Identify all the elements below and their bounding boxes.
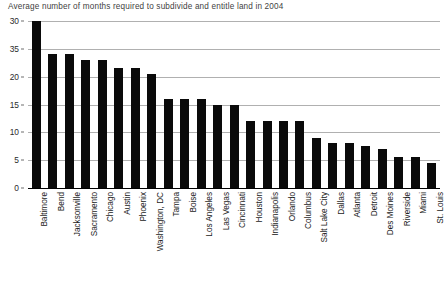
bar xyxy=(147,74,156,188)
x-axis-label-slot: Phoenix xyxy=(127,190,143,290)
bar-slot xyxy=(292,21,308,188)
bar-slot xyxy=(143,21,159,188)
x-axis-label-slot: Cincinnati xyxy=(226,190,242,290)
x-axis-label-slot: Tampa xyxy=(160,190,176,290)
y-axis-tick-mark xyxy=(21,188,24,189)
bar xyxy=(131,68,140,188)
bar-slot xyxy=(160,21,176,188)
y-axis-tick-mark xyxy=(21,21,24,22)
y-axis-tick-label: 20 xyxy=(10,72,19,82)
y-axis-tick-mark xyxy=(21,104,24,105)
x-axis-label-slot: Riverside xyxy=(391,190,407,290)
bar-slot xyxy=(28,21,44,188)
chart-title: Average number of months required to sub… xyxy=(8,2,284,11)
bar-slot xyxy=(325,21,341,188)
x-axis-label-slot: Austin xyxy=(110,190,126,290)
x-axis-label-slot: Boise xyxy=(176,190,192,290)
bar xyxy=(180,99,189,188)
bar-slot xyxy=(407,21,423,188)
bar-slot xyxy=(308,21,324,188)
bar-slot xyxy=(358,21,374,188)
x-axis-label-slot: Chicago xyxy=(94,190,110,290)
bar xyxy=(279,121,288,188)
bar-slot xyxy=(209,21,225,188)
x-axis: BaltimoreBendJacksonvilleSacramentoChica… xyxy=(28,190,440,290)
y-axis-tick-mark xyxy=(21,76,24,77)
bar xyxy=(164,99,173,188)
plot-area xyxy=(28,21,440,188)
bar-slot xyxy=(110,21,126,188)
y-axis-tick-mark xyxy=(21,160,24,161)
bar xyxy=(263,121,272,188)
x-axis-label-slot: Atlanta xyxy=(341,190,357,290)
bar-slot xyxy=(94,21,110,188)
bar-slot xyxy=(259,21,275,188)
bar xyxy=(295,121,304,188)
y-axis-tick-label: 35 xyxy=(10,44,19,54)
x-axis-label-slot: Detroit xyxy=(358,190,374,290)
bar xyxy=(81,60,90,188)
bar xyxy=(114,68,123,188)
bar xyxy=(345,143,354,188)
bar-slot xyxy=(341,21,357,188)
y-axis-tick-label: 5 xyxy=(14,155,19,165)
x-axis-label-slot: Des Moines xyxy=(374,190,390,290)
gridline xyxy=(28,188,440,189)
x-axis-label-slot: Jacksonville xyxy=(61,190,77,290)
bar-series xyxy=(28,21,440,188)
bar xyxy=(98,60,107,188)
y-axis-tick-label: 10 xyxy=(10,127,19,137)
y-axis-tick-label: 0 xyxy=(14,183,19,193)
x-axis-label-slot: Dallas xyxy=(325,190,341,290)
bar xyxy=(230,105,239,189)
bar xyxy=(394,157,403,188)
bar-slot xyxy=(242,21,258,188)
x-axis-label-slot: Las Vegas xyxy=(209,190,225,290)
bar-chart-figure: Average number of months required to sub… xyxy=(0,0,446,293)
bar xyxy=(197,99,206,188)
bar xyxy=(65,54,74,188)
bar-slot xyxy=(176,21,192,188)
bar-slot xyxy=(226,21,242,188)
bar xyxy=(328,143,337,188)
bar xyxy=(48,54,57,188)
x-axis-label-slot: Sacramento xyxy=(77,190,93,290)
x-axis-label-slot: Salt Lake City xyxy=(308,190,324,290)
bar xyxy=(32,21,41,188)
x-axis-label-slot: Houston xyxy=(242,190,258,290)
bar-slot xyxy=(424,21,440,188)
bar-slot xyxy=(77,21,93,188)
y-axis-tick-mark xyxy=(21,132,24,133)
x-axis-label-slot: Baltimore xyxy=(28,190,44,290)
bar-slot xyxy=(61,21,77,188)
x-axis-label-slot: Miami xyxy=(407,190,423,290)
x-axis-label-slot: Washington, DC xyxy=(143,190,159,290)
bar-slot xyxy=(374,21,390,188)
bar xyxy=(361,146,370,188)
bar-slot xyxy=(193,21,209,188)
bar-slot xyxy=(275,21,291,188)
bar xyxy=(411,157,420,188)
y-axis-tick-label: 15 xyxy=(10,100,19,110)
x-axis-label-slot: Columbus xyxy=(292,190,308,290)
bar-slot xyxy=(44,21,60,188)
bar-slot xyxy=(391,21,407,188)
x-axis-label-slot: Los Angeles xyxy=(193,190,209,290)
x-axis-label-slot: Indianapolis xyxy=(259,190,275,290)
bar xyxy=(378,149,387,188)
bar xyxy=(427,163,436,188)
bar xyxy=(312,138,321,188)
x-axis-label-slot: St. Louis xyxy=(424,190,440,290)
y-axis-tick-mark xyxy=(21,48,24,49)
bar xyxy=(213,105,222,189)
x-axis-tick-label: St. Louis xyxy=(436,192,445,224)
y-axis-tick-label: 30 xyxy=(10,16,19,26)
x-axis-label-slot: Bend xyxy=(44,190,60,290)
x-axis-label-slot: Orlando xyxy=(275,190,291,290)
bar-slot xyxy=(127,21,143,188)
y-axis: 303520151050 xyxy=(0,21,24,188)
bar xyxy=(246,121,255,188)
